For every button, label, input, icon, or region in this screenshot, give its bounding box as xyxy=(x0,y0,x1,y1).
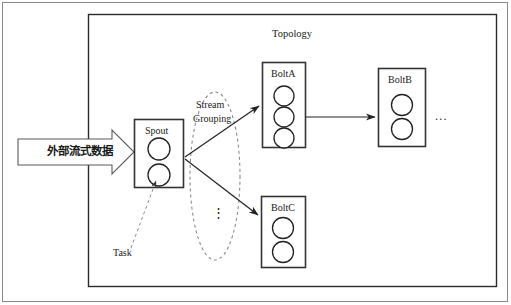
boltb-task-circle-2 xyxy=(392,119,413,140)
bolta-task-circle-2 xyxy=(274,107,294,127)
spout-task-circle-2 xyxy=(148,164,170,186)
diagram-canvas: Topology 外部流式数据 Spout Stream Grouping ⋮ … xyxy=(0,0,511,305)
boltc-task-circle-2 xyxy=(273,242,294,263)
bolta-task-circle-3 xyxy=(274,128,294,148)
spout-task-circle-1 xyxy=(148,138,170,160)
storm-topology-diagram xyxy=(0,0,511,305)
boltb-task-circle-1 xyxy=(392,95,413,116)
boltc-task-circle-1 xyxy=(273,218,294,239)
bolta-task-circle-1 xyxy=(274,86,294,106)
external-stream-arrow-shape xyxy=(18,130,134,174)
